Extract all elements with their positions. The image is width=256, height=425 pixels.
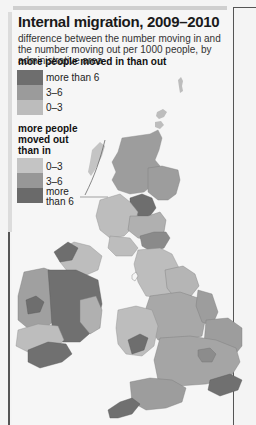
shetland	[178, 77, 183, 93]
legend-swatch-gain-low	[17, 100, 43, 115]
legend-swatch-loss-high	[17, 188, 43, 203]
legend-swatch-gain-high	[17, 70, 43, 85]
legend-label-loss-low: 0–3	[46, 162, 63, 172]
legend-label-gain-mid: 3–6	[46, 88, 63, 98]
legend-loss-heading-3: than in	[18, 146, 51, 157]
cornwall	[108, 398, 140, 418]
orkney	[155, 109, 167, 129]
legend-label-gain-low: 0–3	[46, 103, 63, 113]
southwest-scotland	[108, 236, 138, 256]
western-isles	[88, 142, 105, 176]
legend-swatch-loss-low	[17, 158, 43, 173]
legend-label-gain-high: more than 6	[46, 73, 99, 83]
legend-loss-heading-2: moved out	[18, 135, 69, 146]
figure-title: Internal migration, 2009–2010	[18, 13, 219, 30]
legend-swatch-gain-mid	[17, 85, 43, 100]
legend-loss-heading-1: more people	[18, 124, 77, 135]
legend-label-loss-high-2: than 6	[46, 197, 74, 207]
legend-gain-heading: more people moved in than out	[18, 57, 166, 68]
scotland-northeast	[148, 166, 180, 200]
legend-swatch-loss-mid	[17, 173, 43, 188]
